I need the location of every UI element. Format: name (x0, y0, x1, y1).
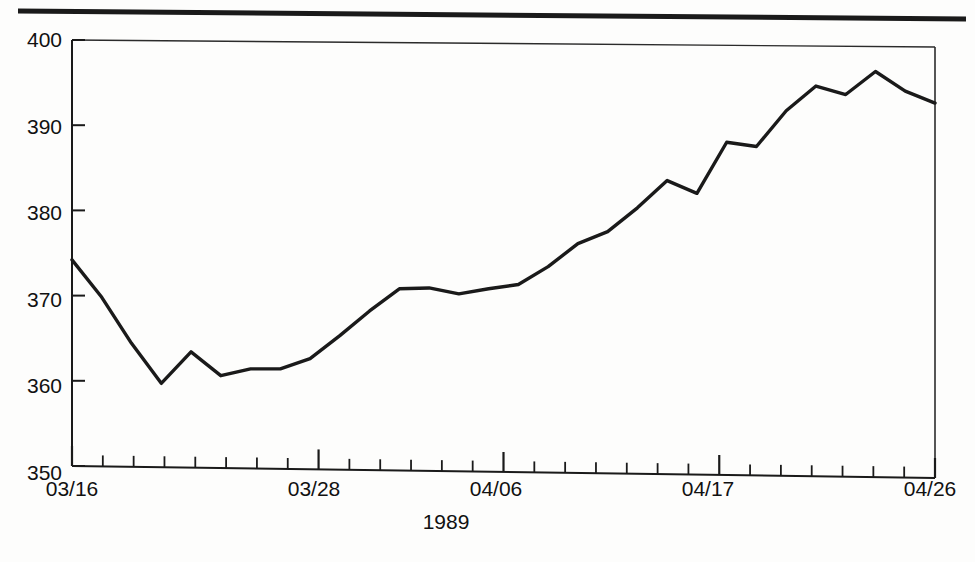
y-tick-label-390: 390 (6, 115, 62, 139)
y-tick-label-370: 370 (6, 288, 62, 312)
y-tick-label-400: 400 (6, 28, 62, 52)
x-axis-title-year: 1989 (396, 510, 496, 534)
y-tick-label-380: 380 (6, 201, 62, 225)
x-tick-label-0426: 04/26 (880, 477, 975, 501)
y-tick-label-360: 360 (6, 374, 62, 398)
x-tick-label-0328: 03/28 (264, 477, 364, 501)
figure-container: 400 390 380 370 360 350 03/16 03/28 04/0… (0, 0, 975, 562)
x-tick-label-0406: 04/06 (446, 477, 546, 501)
y-axis-ticks (72, 40, 85, 466)
x-tick-label-0316: 03/16 (22, 477, 122, 501)
axes-frame (72, 40, 935, 478)
x-tick-label-0417: 04/17 (658, 477, 758, 501)
data-series-line (72, 72, 935, 384)
x-axis-ticks (72, 446, 935, 478)
